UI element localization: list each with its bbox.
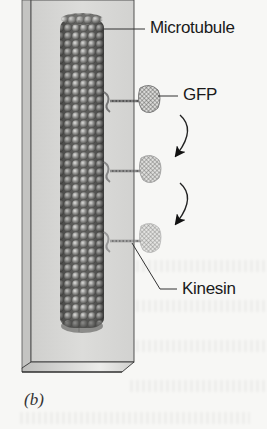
microtubule-filament bbox=[60, 13, 104, 333]
panel-label: (b) bbox=[24, 390, 44, 410]
movement-arrow-1 bbox=[178, 115, 188, 153]
gfp-barrel-icon bbox=[139, 223, 161, 252]
gfp-barrel-icon bbox=[139, 155, 161, 182]
movement-arrow-2 bbox=[178, 183, 188, 221]
microtubule-label: Microtubule bbox=[150, 18, 235, 38]
diagram-canvas bbox=[0, 0, 267, 429]
gfp-barrel-icon bbox=[138, 85, 160, 112]
kinesin-label: Kinesin bbox=[182, 279, 236, 299]
gfp-label: GFP bbox=[183, 85, 217, 105]
